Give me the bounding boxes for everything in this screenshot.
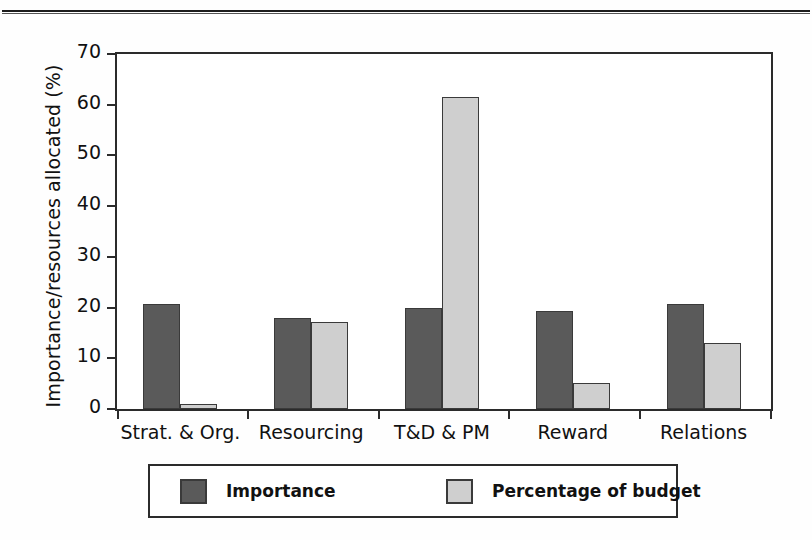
legend-label-percentage-of-budget: Percentage of budget bbox=[492, 481, 701, 501]
legend-item-percentage-of-budget: Percentage of budget bbox=[446, 479, 701, 504]
y-axis-tick-label: 70 bbox=[77, 40, 101, 62]
x-axis-labels: Strat. & Org.ResourcingT&D & PMRewardRel… bbox=[115, 421, 773, 449]
y-axis-tick-label: 0 bbox=[89, 395, 101, 417]
bar bbox=[274, 318, 311, 409]
bar-chart-figure: Importance/resources allocated (%) 01020… bbox=[0, 0, 812, 540]
bar bbox=[667, 304, 704, 409]
x-axis-category-label: Relations bbox=[638, 421, 769, 443]
light-gray-swatch-icon bbox=[446, 479, 473, 504]
y-axis-tick-label: 50 bbox=[77, 141, 101, 163]
plot-area: 010203040506070 bbox=[115, 52, 773, 411]
x-axis-category-label: Reward bbox=[507, 421, 638, 443]
bar bbox=[536, 311, 573, 409]
x-axis-tick bbox=[508, 409, 510, 419]
dark-gray-swatch-icon bbox=[180, 479, 207, 504]
y-axis-tick: 0 bbox=[107, 408, 117, 410]
chart-legend: Importance Percentage of budget bbox=[148, 464, 678, 518]
x-axis-category-label: T&D & PM bbox=[377, 421, 508, 443]
y-axis-tick-label: 30 bbox=[77, 243, 101, 265]
y-axis-tick: 60 bbox=[107, 104, 117, 106]
y-axis-tick: 10 bbox=[107, 357, 117, 359]
x-axis-tick bbox=[378, 409, 380, 419]
x-axis-category-label: Strat. & Org. bbox=[115, 421, 246, 443]
y-axis-tick: 70 bbox=[107, 53, 117, 55]
bar bbox=[704, 343, 741, 409]
y-axis-tick: 40 bbox=[107, 205, 117, 207]
y-axis-tick-label: 10 bbox=[77, 344, 101, 366]
bar bbox=[442, 97, 479, 409]
bar bbox=[311, 322, 348, 409]
legend-label-importance: Importance bbox=[226, 481, 336, 501]
x-axis-tick bbox=[117, 409, 119, 419]
y-axis-tick: 50 bbox=[107, 154, 117, 156]
page-top-rule bbox=[2, 10, 810, 12]
bar bbox=[180, 404, 217, 409]
x-axis-tick bbox=[770, 409, 772, 419]
y-axis-tick-label: 60 bbox=[77, 91, 101, 113]
bars-container bbox=[117, 54, 771, 409]
y-axis-tick: 20 bbox=[107, 307, 117, 309]
page-top-rule-secondary bbox=[2, 13, 810, 14]
y-axis-label: Importance/resources allocated (%) bbox=[42, 46, 64, 426]
x-axis-category-label: Resourcing bbox=[246, 421, 377, 443]
x-axis-tick bbox=[639, 409, 641, 419]
x-axis-tick bbox=[247, 409, 249, 419]
y-axis-tick-label: 20 bbox=[77, 294, 101, 316]
legend-item-importance: Importance bbox=[180, 479, 336, 504]
y-axis-tick: 30 bbox=[107, 256, 117, 258]
bar bbox=[143, 304, 180, 409]
bar bbox=[573, 383, 610, 409]
bar bbox=[405, 308, 442, 409]
y-axis-tick-label: 40 bbox=[77, 192, 101, 214]
